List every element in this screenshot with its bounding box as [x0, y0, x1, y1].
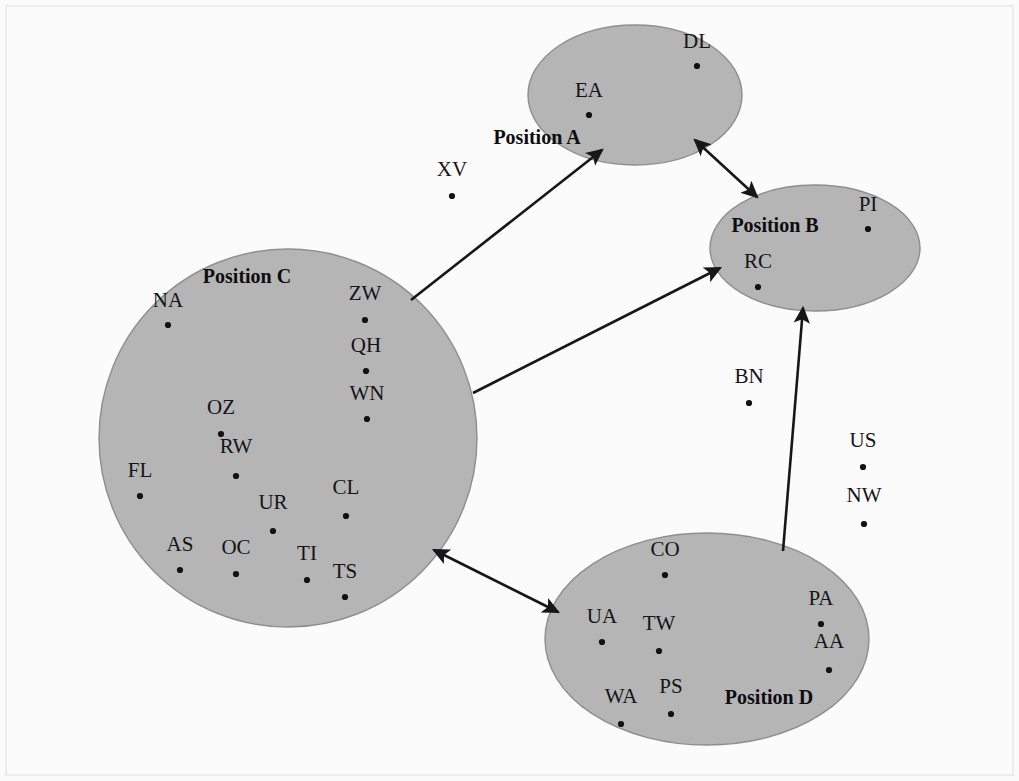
- region-label-position-d: Position D: [725, 686, 813, 708]
- node-label-us: US: [850, 428, 877, 452]
- region-label-position-c: Position C: [203, 265, 291, 287]
- node-label-oc: OC: [221, 535, 250, 559]
- connector-c-to-d[interactable]: [434, 550, 558, 612]
- node-label-cl: CL: [333, 475, 360, 499]
- node-dot-co: [662, 572, 668, 578]
- node-label-na: NA: [153, 288, 184, 312]
- node-label-fl: FL: [128, 458, 153, 482]
- node-label-pa: PA: [809, 586, 835, 610]
- node-label-tw: TW: [643, 611, 676, 635]
- connector-a-to-b[interactable]: [695, 140, 757, 197]
- connector-d-to-b[interactable]: [783, 308, 803, 551]
- node-label-ps: PS: [659, 674, 682, 698]
- outside-node-bn[interactable]: BN: [734, 364, 763, 406]
- node-dot-wn: [364, 416, 370, 422]
- node-label-dl: DL: [683, 29, 711, 53]
- node-dot-as: [177, 567, 183, 573]
- region-label-position-a: Position A: [493, 126, 581, 148]
- node-dot-aa: [826, 667, 832, 673]
- node-label-xv: XV: [437, 157, 467, 181]
- node-dot-fl: [137, 493, 143, 499]
- node-dot-rw: [233, 473, 239, 479]
- outside-node-nw[interactable]: NW: [847, 483, 882, 527]
- node-dot-ps: [668, 711, 674, 717]
- connector-c-to-b[interactable]: [473, 268, 720, 393]
- node-label-ea: EA: [575, 78, 604, 102]
- node-label-wa: WA: [605, 684, 638, 708]
- node-label-nw: NW: [847, 483, 882, 507]
- outside-node-xv[interactable]: XV: [437, 157, 467, 199]
- node-dot-na: [165, 322, 171, 328]
- node-label-ur: UR: [258, 490, 287, 514]
- node-dot-ur: [270, 528, 276, 534]
- node-label-oz: OZ: [207, 395, 235, 419]
- node-label-ua: UA: [587, 604, 618, 628]
- node-label-qh: QH: [351, 333, 381, 357]
- node-label-rw: RW: [220, 434, 253, 458]
- node-label-ts: TS: [333, 559, 358, 583]
- node-dot-nw: [861, 521, 867, 527]
- node-dot-us: [860, 464, 866, 470]
- region-label-position-b: Position B: [731, 214, 818, 236]
- node-label-as: AS: [167, 532, 194, 556]
- diagram-canvas: DLEAPIRCNAZWQHWNOZRWFLCLURASOCTITSCOPAUA…: [0, 0, 1019, 781]
- node-dot-wa: [618, 721, 624, 727]
- node-label-rc: RC: [744, 249, 772, 273]
- node-label-wn: WN: [350, 381, 385, 405]
- node-label-pi: PI: [859, 192, 878, 216]
- node-dot-ti: [304, 577, 310, 583]
- node-dot-rc: [755, 284, 761, 290]
- position-cluster-diagram: DLEAPIRCNAZWQHWNOZRWFLCLURASOCTITSCOPAUA…: [0, 0, 1019, 781]
- node-dot-zw: [362, 317, 368, 323]
- outside-node-us[interactable]: US: [850, 428, 877, 470]
- node-dot-bn: [746, 400, 752, 406]
- node-label-ti: TI: [297, 541, 317, 565]
- node-dot-ea: [586, 112, 592, 118]
- node-dot-xv: [449, 193, 455, 199]
- node-label-bn: BN: [734, 364, 763, 388]
- node-dot-ts: [342, 594, 348, 600]
- node-dot-pi: [865, 226, 871, 232]
- node-label-co: CO: [650, 537, 679, 561]
- node-label-aa: AA: [814, 629, 845, 653]
- region-position-b[interactable]: [710, 185, 920, 311]
- node-dot-oc: [233, 571, 239, 577]
- node-dot-cl: [343, 513, 349, 519]
- node-dot-dl: [694, 63, 700, 69]
- node-dot-qh: [363, 368, 369, 374]
- node-dot-ua: [599, 639, 605, 645]
- node-dot-pa: [818, 621, 824, 627]
- node-label-zw: ZW: [349, 281, 382, 305]
- node-dot-tw: [656, 648, 662, 654]
